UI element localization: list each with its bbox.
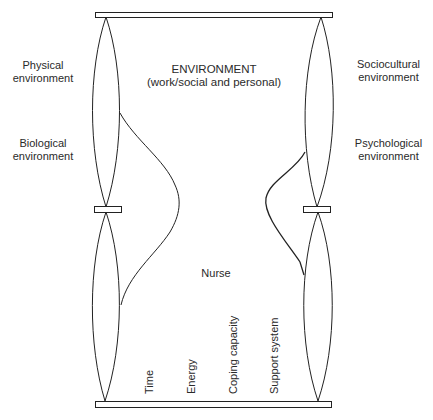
nurse-label: Nurse xyxy=(186,267,246,280)
resource-coping-capacity: Coping capacity xyxy=(227,316,239,394)
left-pinch-bar xyxy=(95,207,122,213)
left-upper-lens xyxy=(93,17,120,207)
resource-energy: Energy xyxy=(185,359,197,394)
left-lower-lens xyxy=(92,212,119,401)
left-stress-curve xyxy=(120,113,179,305)
label-biological-environment: Biological environment xyxy=(0,137,86,163)
bottom-bar xyxy=(96,402,332,408)
top-bar xyxy=(96,13,333,18)
environment-subheading: (work/social and personal) xyxy=(134,76,294,89)
label-psychological-environment: Psychological environment xyxy=(344,137,433,163)
right-pinch-bar xyxy=(304,207,331,213)
label-physical-environment: Physical environment xyxy=(0,59,86,85)
right-lower-lens xyxy=(304,212,333,401)
label-sociocultural-environment: Sociocultural environment xyxy=(344,58,433,84)
resource-support-system: Support system xyxy=(268,318,280,394)
resource-time: Time xyxy=(143,370,155,394)
environment-title: ENVIRONMENT (work/social and personal) xyxy=(134,63,294,89)
right-stress-curve xyxy=(266,152,305,275)
environment-heading: ENVIRONMENT xyxy=(134,63,294,76)
stress-model-diagram: ENVIRONMENT (work/social and personal) P… xyxy=(0,0,433,420)
right-upper-lens xyxy=(305,17,333,207)
